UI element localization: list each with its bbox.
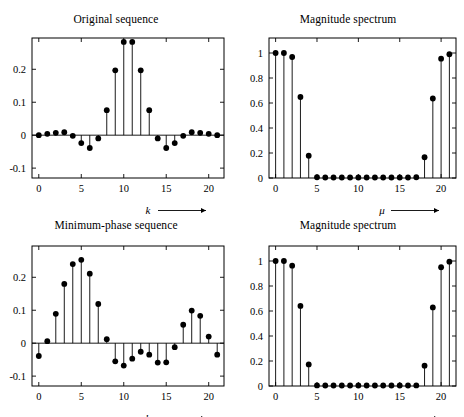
x-tick-label: 10	[119, 391, 130, 402]
stem-marker	[197, 313, 203, 319]
y-tick-label: -0.1	[9, 371, 26, 382]
plot-canvas-original-sequence: 05101520-0.100.10.2k	[0, 30, 232, 205]
stem-marker	[121, 39, 127, 45]
y-tick-label: 0.1	[13, 305, 26, 316]
x-tick-label: 0	[36, 391, 41, 402]
stem-marker	[339, 383, 345, 389]
stem-series	[36, 257, 220, 369]
x-tick-label: 15	[161, 183, 172, 194]
stem-marker	[446, 51, 452, 57]
stem-marker	[380, 175, 386, 181]
stem-marker	[138, 349, 144, 355]
x-tick-label: 20	[436, 183, 447, 194]
stem-plot-magnitude-spectrum-bottom: 0510152000.20.40.60.81μ	[232, 236, 464, 414]
stem-marker	[298, 94, 304, 100]
x-tick-label: 15	[161, 391, 172, 402]
stem-marker	[104, 107, 110, 113]
y-tick-label: 0.8	[250, 73, 263, 84]
stem-marker	[331, 175, 337, 181]
x-tick-label: 5	[314, 183, 319, 194]
stem-marker	[397, 383, 403, 389]
x-tick-label: 5	[314, 391, 319, 402]
stem-plot-original-sequence: 05101520-0.100.10.2k	[0, 30, 232, 205]
plot-canvas-magnitude-spectrum-bottom: 0510152000.20.40.60.81μ	[232, 236, 464, 414]
stem-marker	[413, 174, 419, 180]
x-tick-label: 15	[394, 183, 405, 194]
x-tick-label: 10	[119, 183, 130, 194]
stem-marker	[397, 175, 403, 181]
stem-marker	[138, 67, 144, 73]
y-tick-label: 0.1	[13, 97, 26, 108]
stem-marker	[61, 281, 67, 287]
stem-marker	[206, 334, 212, 340]
x-tick-label: 20	[203, 183, 214, 194]
x-tick-label: 10	[353, 183, 364, 194]
y-tick-label: 0.2	[250, 148, 263, 159]
stem-marker	[322, 175, 328, 181]
stem-marker	[87, 271, 93, 277]
plot-canvas-magnitude-spectrum-top: 0510152000.20.40.60.81μ	[232, 30, 464, 205]
y-tick-label: 0.8	[250, 281, 263, 292]
stem-marker	[389, 383, 395, 389]
y-tick-label: 0.6	[250, 306, 263, 317]
panel-title-minimum-phase-sequence: Minimum-phase sequence	[0, 219, 232, 231]
stem-marker	[214, 352, 220, 358]
stem-series	[273, 50, 453, 180]
panel-bottom-right: Magnitude spectrum 0510152000.20.40.60.8…	[232, 207, 464, 417]
stem-marker	[405, 175, 411, 181]
stem-marker	[364, 383, 370, 389]
x-tick-label: 0	[36, 183, 41, 194]
y-tick-label: 0.6	[250, 98, 263, 109]
stem-marker	[281, 50, 287, 56]
y-tick-label: 0.4	[250, 123, 264, 134]
stem-series	[36, 39, 220, 151]
stem-series	[273, 258, 453, 388]
panel-title-original-sequence: Original sequence	[0, 13, 232, 25]
stem-marker	[372, 175, 378, 181]
stem-marker	[289, 263, 295, 269]
stem-marker	[364, 175, 370, 181]
x-tick-label: 20	[203, 391, 214, 402]
stem-marker	[180, 322, 186, 328]
x-axis-label: k	[146, 412, 152, 417]
stem-marker	[104, 336, 110, 342]
y-tick-label: 0	[21, 338, 26, 349]
stem-marker	[155, 136, 161, 142]
stem-marker	[314, 174, 320, 180]
x-tick-label: 0	[273, 183, 278, 194]
stem-marker	[95, 301, 101, 307]
stem-marker	[446, 259, 452, 265]
stem-marker	[372, 383, 378, 389]
stem-marker	[78, 140, 84, 146]
x-tick-label: 5	[79, 391, 84, 402]
stem-marker	[44, 338, 50, 344]
stem-plot-magnitude-spectrum-top: 0510152000.20.40.60.81μ	[232, 30, 464, 205]
stem-marker	[422, 363, 428, 369]
stem-marker	[129, 356, 135, 362]
y-tick-label: 1	[258, 48, 263, 59]
stem-marker	[430, 304, 436, 310]
panel-title-magnitude-spectrum-top: Magnitude spectrum	[232, 13, 464, 25]
stem-marker	[53, 130, 59, 136]
stem-marker	[273, 258, 279, 264]
stem-marker	[70, 133, 76, 139]
stem-marker	[281, 258, 287, 264]
stem-marker	[438, 264, 444, 270]
stem-marker	[44, 131, 50, 137]
stem-marker	[172, 140, 178, 146]
stem-marker	[355, 175, 361, 181]
y-tick-label: 0.2	[250, 356, 263, 367]
stem-marker	[197, 130, 203, 136]
x-axis-label: μ	[378, 412, 385, 417]
stem-marker	[36, 353, 42, 359]
stem-marker	[172, 344, 178, 350]
stem-marker	[306, 153, 312, 159]
stem-marker	[146, 107, 152, 113]
stem-marker	[155, 360, 161, 366]
stem-marker	[112, 67, 118, 73]
stem-marker	[331, 383, 337, 389]
x-tick-label: 15	[394, 391, 405, 402]
stem-marker	[61, 129, 67, 135]
stem-marker	[438, 56, 444, 62]
y-tick-label: 0.2	[13, 272, 26, 283]
